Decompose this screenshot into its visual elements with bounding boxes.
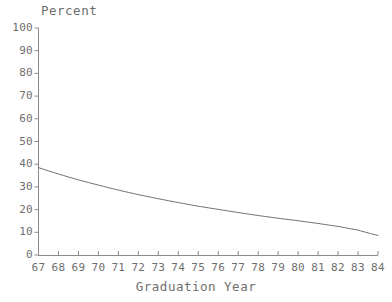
x-axis-tick-label: 84 xyxy=(366,261,390,274)
axis-lines xyxy=(38,28,378,256)
y-axis-tick-label: 10 xyxy=(3,225,33,238)
chart-container: Percent 0102030405060708090100 676869707… xyxy=(0,0,392,302)
y-axis-tick-label: 30 xyxy=(3,180,33,193)
y-axis-tick-label: 0 xyxy=(3,248,33,261)
y-axis-ticks xyxy=(35,28,39,255)
y-axis-tick-label: 90 xyxy=(3,44,33,57)
data-series-line xyxy=(39,168,379,236)
y-axis-tick-label: 80 xyxy=(3,66,33,79)
y-axis-tick-label: 60 xyxy=(3,112,33,125)
y-axis-tick-label: 70 xyxy=(3,89,33,102)
x-axis-title: Graduation Year xyxy=(0,279,392,294)
plot-area xyxy=(0,0,392,302)
y-axis-tick-label: 20 xyxy=(3,203,33,216)
x-axis-ticks xyxy=(39,251,379,255)
y-axis-tick-label: 40 xyxy=(3,157,33,170)
y-axis-tick-label: 100 xyxy=(3,21,33,34)
y-axis-tick-label: 50 xyxy=(3,135,33,148)
